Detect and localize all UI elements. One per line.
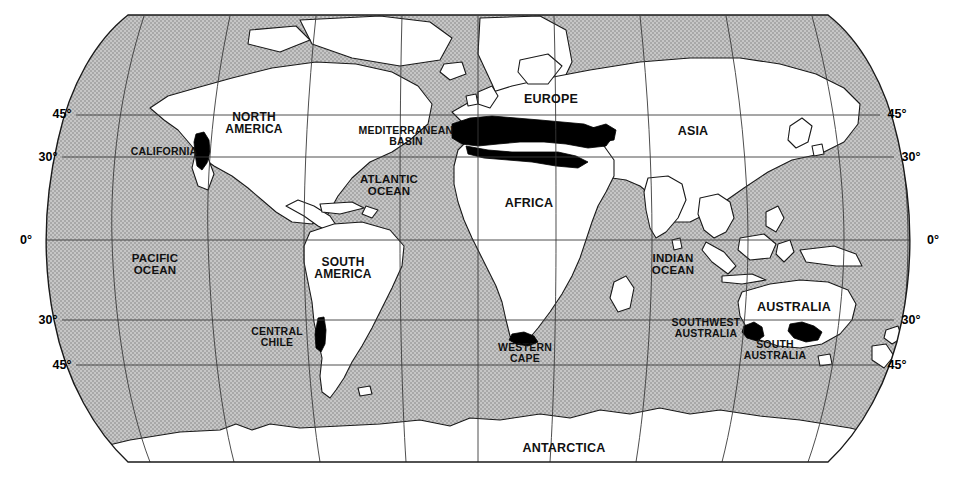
latitude-label-left-2: 0° [20, 233, 32, 247]
ireland [466, 94, 478, 106]
latitude-label-right-0: 45° [888, 107, 907, 121]
map-canvas [0, 0, 956, 486]
latitude-label-left-3: 30° [39, 313, 58, 327]
tasmania [818, 354, 832, 366]
latitude-label-right-2: 0° [927, 233, 939, 247]
latitude-label-left-1: 30° [39, 150, 58, 164]
latitude-label-right-4: 45° [888, 358, 907, 372]
falkland-islands [358, 386, 372, 396]
japan-b [812, 144, 824, 156]
latitude-label-right-3: 30° [902, 313, 921, 327]
latitude-label-right-1: 30° [902, 150, 921, 164]
latitude-label-left-4: 45° [53, 358, 72, 372]
latitude-label-left-0: 45° [53, 107, 72, 121]
world-map: 45°30°0°30°45° 45°30°0°30°45° NORTH AMER… [0, 0, 956, 486]
